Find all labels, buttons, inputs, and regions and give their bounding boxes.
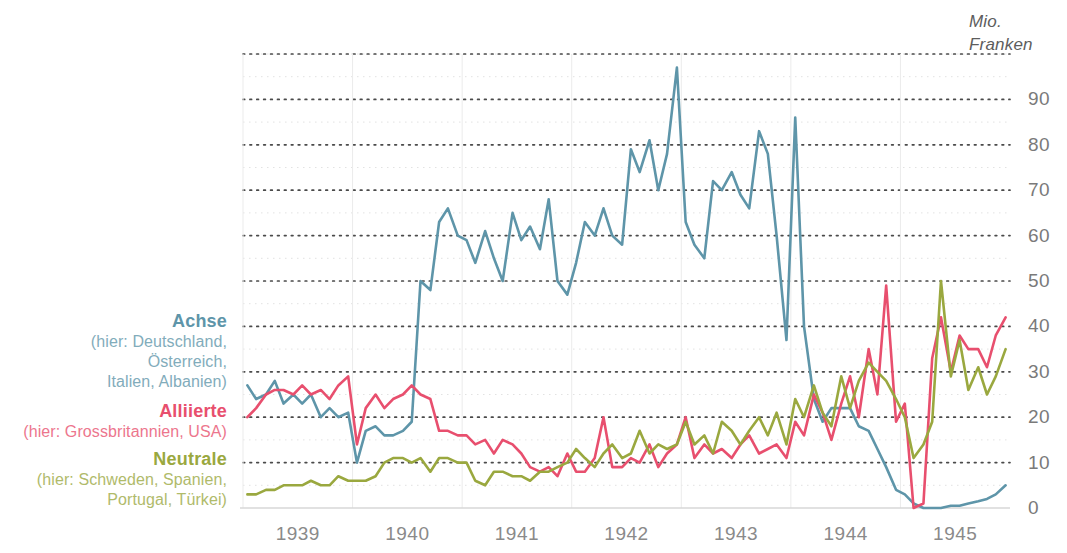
chart-container: Mio. Franken 0102030405060708090 1939194…	[0, 0, 1067, 553]
legend-detail-line: Portugal, Türkei)	[0, 490, 227, 510]
legend-detail-achse: (hier: Deutschland,Österreich,Italien, A…	[0, 332, 227, 392]
legend-entry-neutrale: Neutrale(hier: Schweden, Spanien,Portuga…	[0, 448, 227, 510]
legend-entry-achse: Achse(hier: Deutschland,Österreich,Itali…	[0, 310, 227, 392]
legend-detail-line: (hier: Deutschland,	[0, 332, 227, 352]
legend-detail-line: Italien, Albanien)	[0, 372, 227, 392]
legend-title-alliierte: Alliierte	[0, 400, 227, 422]
legend-detail-line: (hier: Schweden, Spanien,	[0, 470, 227, 490]
legend-title-neutrale: Neutrale	[0, 448, 227, 470]
legend-title-achse: Achse	[0, 310, 227, 332]
chart-legend: Achse(hier: Deutschland,Österreich,Itali…	[0, 0, 1067, 553]
legend-entry-alliierte: Alliierte(hier: Grossbritannien, USA)	[0, 400, 227, 442]
legend-detail-alliierte: (hier: Grossbritannien, USA)	[0, 422, 227, 442]
legend-detail-line: Österreich,	[0, 352, 227, 372]
legend-detail-neutrale: (hier: Schweden, Spanien,Portugal, Türke…	[0, 470, 227, 510]
legend-detail-line: (hier: Grossbritannien, USA)	[0, 422, 227, 442]
